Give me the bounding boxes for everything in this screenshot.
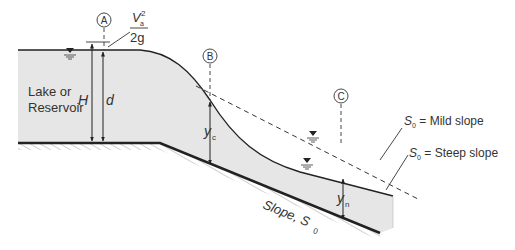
section-b-label: B — [207, 51, 214, 62]
velocity-head-denominator: 2g — [130, 30, 144, 45]
channel-flow-diagram: A V 2 a 2g H d Lake or Reservoir B y c C — [0, 0, 515, 250]
svg-text:a: a — [140, 20, 144, 27]
svg-text:n: n — [345, 200, 349, 209]
mild-slope-label: S — [404, 114, 412, 128]
svg-text:c: c — [212, 133, 216, 142]
section-a-label: A — [101, 15, 108, 26]
section-c-label: C — [337, 91, 344, 102]
free-surface-symbol-mild — [307, 131, 319, 142]
svg-text:0: 0 — [312, 226, 320, 236]
steep-slope-label: S — [409, 146, 417, 160]
svg-text:= Mild slope: = Mild slope — [416, 114, 484, 128]
svg-text:= Steep slope: = Steep slope — [421, 146, 498, 160]
lake-label: Lake or — [28, 84, 72, 99]
free-surface-symbol-steep — [301, 158, 313, 169]
d-label: d — [106, 92, 115, 108]
diagram-canvas: A V 2 a 2g H d Lake or Reservoir B y c C — [0, 0, 515, 250]
svg-text:2: 2 — [141, 9, 146, 18]
yn-label: y — [336, 190, 345, 206]
yc-label: y — [203, 123, 212, 139]
reservoir-label: Reservoir — [28, 100, 84, 115]
